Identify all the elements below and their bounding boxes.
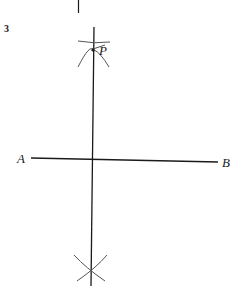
label-a: A (16, 151, 25, 166)
point-p-marker (91, 48, 94, 51)
label-b: B (222, 155, 230, 170)
perpendicular-line (91, 27, 94, 286)
arc-bottom-2 (77, 255, 107, 281)
question-number: 3 (4, 23, 9, 34)
line-ab (31, 158, 218, 162)
arc-bottom-1 (74, 255, 105, 281)
construction-diagram: 3 P A B (0, 0, 233, 286)
arc-left-p (78, 48, 94, 67)
label-p: P (98, 43, 107, 58)
